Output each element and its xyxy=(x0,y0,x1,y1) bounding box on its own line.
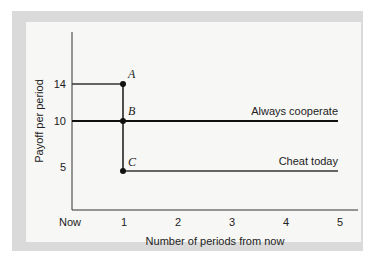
point-c-label: C xyxy=(128,155,137,169)
always-cooperate-label: Always cooperate xyxy=(251,105,338,117)
x-tick-4: 4 xyxy=(283,216,289,228)
x-tick-3: 3 xyxy=(229,216,235,228)
y-tick-5: 5 xyxy=(60,161,66,173)
point-a-label: A xyxy=(127,67,136,81)
cheat-today-label: Cheat today xyxy=(279,155,339,167)
x-tick-2: 2 xyxy=(175,216,181,228)
point-c-marker xyxy=(120,168,126,174)
point-b-label: B xyxy=(128,104,136,118)
x-tick-1: 1 xyxy=(121,216,127,228)
x-tick-5: 5 xyxy=(337,216,343,228)
y-axis-title: Payoff per period xyxy=(33,79,45,163)
x-axis-title: Number of periods from now xyxy=(146,235,285,247)
point-b-marker xyxy=(120,118,126,124)
chart: A B C Always cooperate Cheat today 14 10… xyxy=(0,0,375,265)
point-a-marker xyxy=(120,81,126,87)
y-tick-10: 10 xyxy=(54,115,66,127)
y-tick-14: 14 xyxy=(54,78,66,90)
x-tick-now: Now xyxy=(59,216,81,228)
